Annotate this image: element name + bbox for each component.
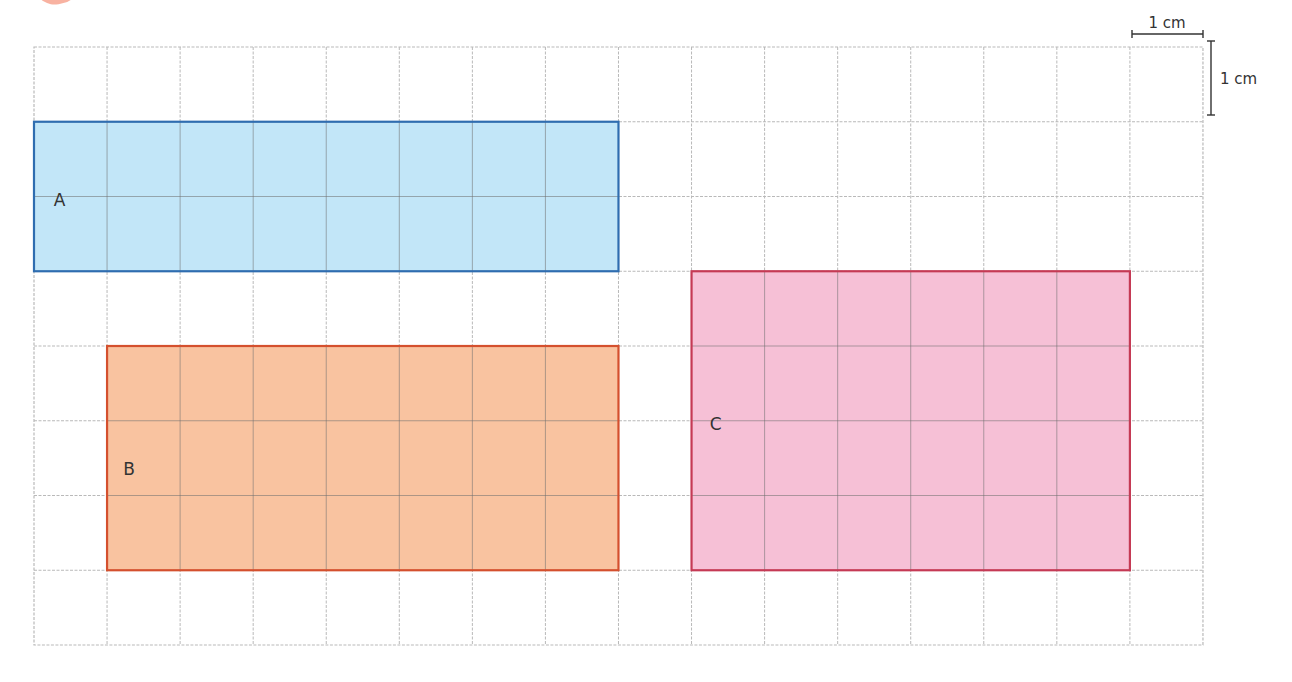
vertical-scale-label: 1 cm xyxy=(1220,70,1257,88)
rectangle-fill xyxy=(107,346,618,570)
diagram-canvas: ABC 1 cm 1 cm xyxy=(0,0,1292,682)
rectangle-b: B xyxy=(107,346,618,570)
shape-label: C xyxy=(710,414,722,434)
rectangles: ABC xyxy=(34,122,1130,571)
rectangle-c: C xyxy=(692,271,1130,570)
shape-label: B xyxy=(123,459,135,479)
horizontal-scale-label: 1 cm xyxy=(1148,14,1185,32)
shape-label: A xyxy=(54,190,66,210)
scale-indicator: 1 cm 1 cm xyxy=(1132,14,1257,115)
rectangle-a: A xyxy=(34,122,618,272)
grid-diagram: ABC 1 cm 1 cm xyxy=(0,0,1292,682)
